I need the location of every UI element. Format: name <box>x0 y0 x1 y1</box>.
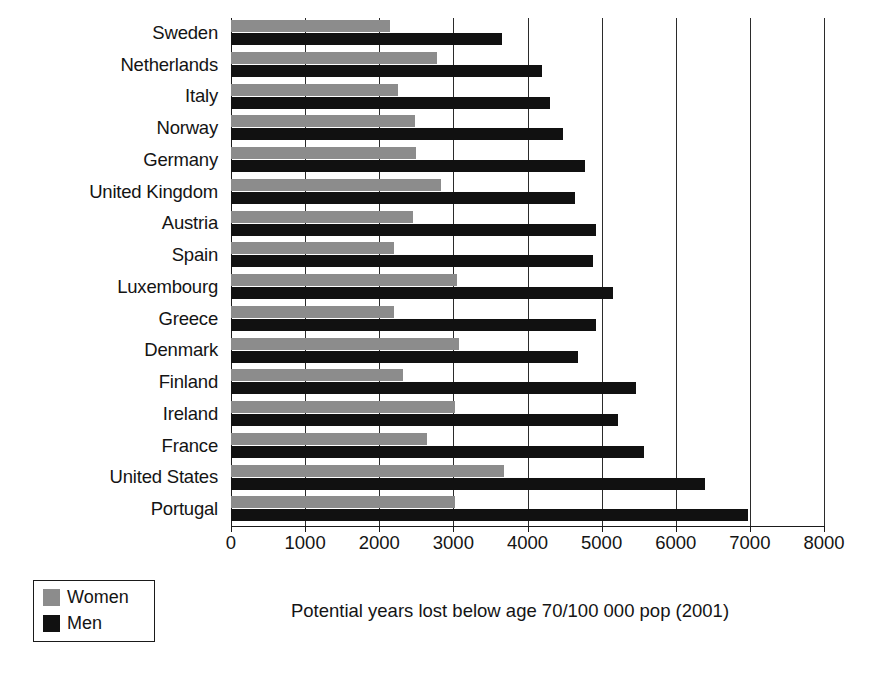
category-label: Greece <box>2 309 218 329</box>
bar-men <box>231 287 613 299</box>
category-label: Germany <box>2 150 218 170</box>
x-tick-mark <box>231 526 232 532</box>
bar-women <box>231 242 394 254</box>
bar-men <box>231 319 596 331</box>
category-label: Austria <box>2 213 218 233</box>
bar-men <box>231 33 502 45</box>
category-label: Portugal <box>2 499 218 519</box>
bar-women <box>231 274 457 286</box>
x-tick-mark <box>528 526 529 532</box>
bar-women <box>231 338 459 350</box>
x-tick-mark <box>824 526 825 532</box>
bar-women <box>231 401 455 413</box>
bar-women <box>231 211 413 223</box>
x-tick-label: 1000 <box>285 532 326 554</box>
category-label: Italy <box>2 86 218 106</box>
bar-women <box>231 147 416 159</box>
legend-swatch-men <box>43 615 60 632</box>
x-tick-mark <box>750 526 751 532</box>
x-tick-mark <box>379 526 380 532</box>
bar-men <box>231 97 550 109</box>
bar-women <box>231 496 455 508</box>
bar-women <box>231 115 415 127</box>
x-axis-tick-labels: 010002000300040005000600070008000 <box>0 532 881 558</box>
x-tick-label: 0 <box>226 532 236 554</box>
bar-women <box>231 433 427 445</box>
bar-women <box>231 179 441 191</box>
bar-men <box>231 509 748 521</box>
x-tick-label: 7000 <box>729 532 770 554</box>
x-tick-mark <box>602 526 603 532</box>
category-label: Ireland <box>2 404 218 424</box>
category-label: United Kingdom <box>2 182 218 202</box>
bar-men <box>231 65 542 77</box>
bar-men <box>231 382 636 394</box>
category-label: Norway <box>2 118 218 138</box>
bar-women <box>231 465 504 477</box>
chart-figure: SwedenNetherlandsItalyNorwayGermanyUnite… <box>0 0 881 675</box>
legend-item-men: Men <box>43 611 102 635</box>
chart-legend: Women Men <box>33 580 155 642</box>
category-label: France <box>2 436 218 456</box>
bar-women <box>231 20 390 32</box>
legend-swatch-women <box>43 589 60 606</box>
x-axis-title: Potential years lost below age 70/100 00… <box>190 600 830 622</box>
legend-label-women: Women <box>67 587 129 607</box>
gridline <box>750 18 751 526</box>
bar-women <box>231 52 437 64</box>
bar-men <box>231 446 644 458</box>
x-tick-label: 2000 <box>359 532 400 554</box>
category-label: Finland <box>2 372 218 392</box>
x-tick-label: 5000 <box>581 532 622 554</box>
bar-men <box>231 478 705 490</box>
x-tick-mark <box>453 526 454 532</box>
plot-area <box>231 18 824 526</box>
x-tick-label: 8000 <box>803 532 844 554</box>
x-tick-mark <box>305 526 306 532</box>
gridline <box>676 18 677 526</box>
bar-women <box>231 84 398 96</box>
x-tick-label: 3000 <box>433 532 474 554</box>
bar-men <box>231 414 618 426</box>
bar-men <box>231 160 585 172</box>
category-axis-labels: SwedenNetherlandsItalyNorwayGermanyUnite… <box>0 18 226 526</box>
gridline <box>824 18 825 526</box>
bar-men <box>231 192 575 204</box>
category-label: Spain <box>2 245 218 265</box>
x-tick-mark <box>676 526 677 532</box>
bar-men <box>231 351 578 363</box>
bar-men <box>231 255 593 267</box>
category-label: Netherlands <box>2 55 218 75</box>
legend-item-women: Women <box>43 585 129 609</box>
category-label: Sweden <box>2 23 218 43</box>
x-tick-label: 4000 <box>507 532 548 554</box>
category-label: United States <box>2 467 218 487</box>
bar-women <box>231 306 394 318</box>
category-label: Luxembourg <box>2 277 218 297</box>
bar-women <box>231 369 403 381</box>
x-tick-label: 6000 <box>655 532 696 554</box>
category-label: Denmark <box>2 340 218 360</box>
legend-label-men: Men <box>67 613 102 633</box>
bar-men <box>231 224 596 236</box>
bar-men <box>231 128 563 140</box>
